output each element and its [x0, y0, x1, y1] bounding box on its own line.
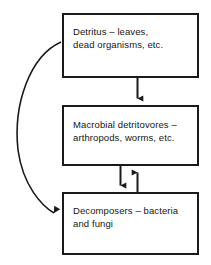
box-decomposers-label: Decomposers – bacteria and fungi: [64, 205, 182, 230]
box-detritus: Detritus – leaves, dead organisms, etc.: [62, 13, 199, 78]
box-macrobial-detritovores: Macrobial detritovores – arthropods, wor…: [62, 105, 199, 166]
box-decomposers: Decomposers – bacteria and fungi: [62, 192, 199, 255]
box-detritus-label: Detritus – leaves, dead organisms, etc.: [64, 26, 167, 51]
arrow-detritus-to-decomposers: [17, 42, 61, 213]
detritus-flow-diagram: Detritus – leaves, dead organisms, etc. …: [0, 0, 211, 265]
box-macrobial-detritovores-label: Macrobial detritovores – arthropods, wor…: [64, 119, 181, 144]
